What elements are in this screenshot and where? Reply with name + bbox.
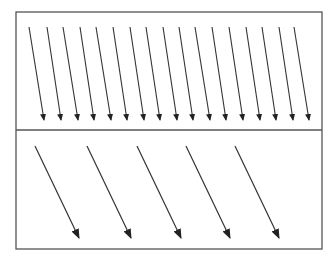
- arrow: [294, 27, 309, 120]
- arrow: [279, 27, 293, 120]
- arrow: [35, 146, 79, 238]
- arrow: [87, 146, 131, 238]
- arrow: [212, 27, 226, 120]
- arrow: [29, 27, 44, 120]
- arrow: [235, 146, 279, 238]
- arrow: [262, 27, 276, 120]
- arrow: [146, 27, 160, 120]
- arrow: [246, 27, 260, 120]
- arrow: [96, 27, 111, 120]
- arrow: [179, 27, 193, 120]
- arrow: [113, 27, 127, 120]
- arrow: [163, 27, 177, 120]
- arrow: [186, 146, 230, 238]
- arrow: [137, 146, 181, 238]
- bottom-panel-arrows: [35, 146, 279, 238]
- arrow: [80, 27, 94, 120]
- arrow: [130, 27, 144, 120]
- arrow: [229, 27, 243, 120]
- arrow: [195, 27, 210, 120]
- arrow: [63, 27, 78, 120]
- arrow: [47, 27, 61, 120]
- arrow-diagram: [0, 0, 336, 265]
- top-panel-arrows: [29, 27, 309, 120]
